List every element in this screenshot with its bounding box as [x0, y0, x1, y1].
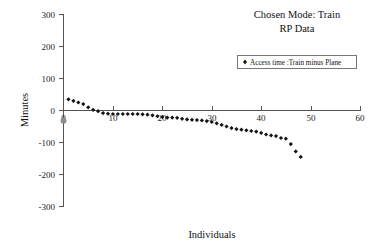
data-point — [96, 109, 100, 113]
x-axis-ticks — [64, 106, 361, 111]
data-point — [220, 123, 224, 127]
data-point — [264, 132, 268, 136]
y-tick-label-minus300: -300 — [39, 202, 56, 212]
y-axis-ticks — [59, 15, 64, 207]
data-point — [229, 126, 233, 130]
data-point — [269, 133, 273, 137]
data-point — [200, 118, 204, 122]
y-tick-label-100: 100 — [42, 74, 56, 84]
data-point — [190, 118, 194, 122]
data-point — [81, 102, 85, 106]
data-point — [76, 100, 80, 104]
data-point — [175, 116, 179, 120]
data-point — [61, 118, 67, 124]
data-points-layer — [61, 97, 303, 159]
y-tick-label-minus200: -200 — [39, 170, 56, 180]
data-point — [71, 99, 75, 103]
chart-figure: 300 200 100 0 -100 -200 -300 0 10 20 30 … — [0, 0, 380, 247]
data-point — [101, 111, 105, 115]
data-point — [224, 124, 228, 128]
legend: Access time :Train minus Plane — [238, 56, 357, 69]
data-point — [259, 131, 263, 135]
x-axis-title: Individuals — [188, 229, 235, 240]
data-point — [244, 128, 248, 132]
x-tick-label-60: 60 — [356, 113, 366, 123]
chart-title: Chosen Mode: Train — [254, 9, 341, 20]
data-point — [180, 117, 184, 121]
chart-subtitle: RP Data — [280, 23, 315, 34]
legend-label: Access time :Train minus Plane — [250, 59, 341, 67]
data-point — [279, 136, 283, 140]
data-point — [145, 113, 149, 117]
scatter-plot: 300 200 100 0 -100 -200 -300 0 10 20 30 … — [0, 0, 380, 247]
data-point — [91, 108, 95, 112]
data-point — [136, 112, 140, 116]
data-point — [170, 115, 174, 119]
data-point — [299, 155, 303, 159]
data-point — [195, 118, 199, 122]
data-point — [254, 130, 258, 134]
data-point — [150, 113, 154, 117]
data-point — [131, 112, 135, 116]
data-point — [274, 134, 278, 138]
data-point — [284, 137, 288, 141]
y-tick-label-minus100: -100 — [39, 138, 56, 148]
y-tick-label-200: 200 — [42, 42, 56, 52]
data-point — [66, 97, 70, 101]
y-tick-label-0: 0 — [51, 106, 56, 116]
data-point — [140, 112, 144, 116]
y-axis-title: Minutes — [19, 93, 30, 127]
x-tick-label-40: 40 — [257, 113, 267, 123]
data-point — [126, 112, 130, 116]
data-point — [289, 142, 293, 146]
data-point — [249, 129, 253, 133]
x-tick-label-50: 50 — [307, 113, 317, 123]
data-point — [86, 105, 90, 109]
y-tick-label-300: 300 — [42, 10, 56, 20]
data-point — [239, 128, 243, 132]
data-point — [234, 127, 238, 131]
data-point — [121, 112, 125, 116]
data-point — [294, 149, 298, 153]
data-point — [185, 117, 189, 121]
